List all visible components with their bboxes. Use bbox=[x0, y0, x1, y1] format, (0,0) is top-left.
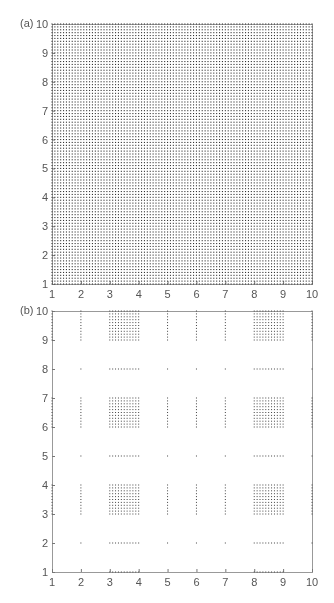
scatter-plot-a bbox=[0, 0, 334, 300]
y-tick-label: 8 bbox=[42, 76, 48, 88]
y-tick-label: 8 bbox=[42, 363, 48, 375]
y-tick-label: 5 bbox=[42, 450, 48, 462]
x-tick-label: 2 bbox=[78, 288, 84, 300]
y-tick-label: 3 bbox=[42, 220, 48, 232]
x-tick-label: 3 bbox=[107, 576, 113, 588]
y-tick-label: 4 bbox=[42, 191, 48, 203]
x-tick-label: 6 bbox=[193, 288, 199, 300]
y-tick-label: 1 bbox=[42, 566, 48, 578]
x-tick-label: 8 bbox=[251, 288, 257, 300]
y-tick-label: 9 bbox=[42, 47, 48, 59]
x-tick-label: 4 bbox=[136, 288, 142, 300]
y-tick-label: 6 bbox=[42, 134, 48, 146]
y-tick-label: 6 bbox=[42, 421, 48, 433]
y-tick-label: 7 bbox=[42, 392, 48, 404]
x-tick-label: 9 bbox=[280, 576, 286, 588]
x-tick-label: 2 bbox=[78, 576, 84, 588]
x-tick-label: 10 bbox=[306, 288, 318, 300]
x-tick-label: 1 bbox=[49, 576, 55, 588]
scatter-plot-b bbox=[0, 300, 334, 603]
x-tick-label: 7 bbox=[222, 576, 228, 588]
y-tick-label: 9 bbox=[42, 334, 48, 346]
chart-panel-b: (b) 1234567891012345678910 bbox=[0, 300, 334, 603]
x-tick-label: 6 bbox=[193, 576, 199, 588]
x-tick-label: 1 bbox=[49, 288, 55, 300]
chart-panel-a: (a) 1234567891012345678910 bbox=[0, 0, 334, 300]
x-tick-label: 9 bbox=[280, 288, 286, 300]
x-tick-label: 3 bbox=[107, 288, 113, 300]
panel-label-a: (a) bbox=[20, 17, 33, 29]
y-tick-label: 7 bbox=[42, 105, 48, 117]
x-tick-label: 4 bbox=[136, 576, 142, 588]
x-tick-label: 10 bbox=[306, 576, 318, 588]
y-tick-label: 1 bbox=[42, 278, 48, 290]
y-tick-label: 2 bbox=[42, 249, 48, 261]
y-tick-label: 4 bbox=[42, 479, 48, 491]
panel-label-b: (b) bbox=[20, 304, 33, 316]
x-tick-label: 5 bbox=[165, 288, 171, 300]
y-tick-label: 2 bbox=[42, 537, 48, 549]
y-tick-label: 5 bbox=[42, 162, 48, 174]
x-tick-label: 7 bbox=[222, 288, 228, 300]
x-tick-label: 5 bbox=[165, 576, 171, 588]
y-tick-label: 10 bbox=[36, 305, 48, 317]
x-tick-label: 8 bbox=[251, 576, 257, 588]
y-tick-label: 10 bbox=[36, 18, 48, 30]
y-tick-label: 3 bbox=[42, 508, 48, 520]
